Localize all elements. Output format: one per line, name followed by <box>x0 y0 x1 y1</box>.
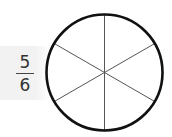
circle-division-lines <box>54 15 154 131</box>
divided-circle <box>0 0 172 137</box>
